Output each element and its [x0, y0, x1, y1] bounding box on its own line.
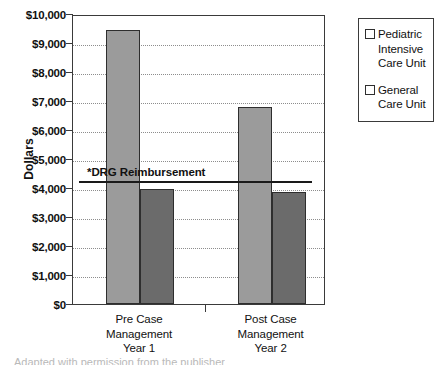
x-axis-category-label-line: Year 2 — [211, 341, 331, 356]
x-axis-category-label: Pre CaseManagementYear 1 — [79, 312, 199, 356]
y-axis-tick-label: $10,000 — [0, 9, 66, 21]
legend-swatch-icon-series-1 — [365, 85, 375, 95]
legend-item-general-care-unit: General Care Unit — [365, 83, 428, 112]
y-axis-tick-label: $2,000 — [0, 241, 66, 253]
y-axis-tick-label: $7,000 — [0, 96, 66, 108]
legend-item-pediatric-intensive-care-unit: Pediatric Intensive Care Unit — [365, 27, 428, 71]
legend-label-line: Intensive — [378, 43, 423, 55]
bar — [238, 107, 272, 304]
y-axis-tick-label: $9,000 — [0, 38, 66, 50]
legend-label-series-0: Pediatric Intensive Care Unit — [378, 27, 426, 71]
y-axis-tick-label: $8,000 — [0, 67, 66, 79]
y-axis-tick-label: $1,000 — [0, 270, 66, 282]
x-axis-category-label-line: Management — [79, 327, 199, 342]
legend-label-line: General — [378, 84, 418, 96]
legend-swatch-icon-series-0 — [365, 29, 375, 39]
y-axis-tick-label: $0 — [0, 299, 66, 311]
y-axis-tick-label: $4,000 — [0, 183, 66, 195]
legend: Pediatric Intensive Care Unit General Ca… — [358, 18, 434, 122]
legend-label-series-1: General Care Unit — [378, 83, 426, 112]
x-axis-tick-mark — [205, 305, 206, 312]
x-axis-category-label: Post CaseManagementYear 2 — [211, 312, 331, 356]
footnote: Adapted with permission from the publish… — [14, 356, 225, 365]
x-axis-category-label-line: Year 1 — [79, 341, 199, 356]
y-axis-tick-label: $3,000 — [0, 212, 66, 224]
y-axis-tick-label: $5,000 — [0, 154, 66, 166]
plot-area: *DRG Reimbursement — [72, 15, 325, 305]
bar-chart: Dollars $10,000$9,000$8,000$7,000$6,000$… — [0, 0, 440, 365]
legend-label-line: Care Unit — [378, 98, 426, 110]
y-axis-tick-label: $6,000 — [0, 125, 66, 137]
x-axis-category-label-line: Management — [211, 327, 331, 342]
bar — [272, 192, 306, 304]
drg-reference-line-label: *DRG Reimbursement — [87, 166, 205, 178]
legend-label-line: Care Unit — [378, 57, 426, 69]
bar — [140, 189, 174, 304]
drg-reference-line — [79, 181, 312, 183]
x-axis-category-label-line: Pre Case — [79, 312, 199, 327]
x-axis-category-label-line: Post Case — [211, 312, 331, 327]
legend-label-line: Pediatric — [378, 28, 422, 40]
